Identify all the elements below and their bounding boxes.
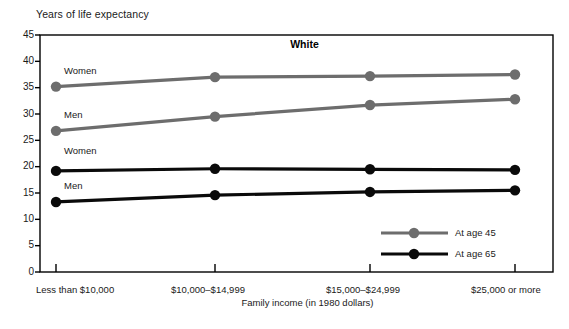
y-tick-label-4: 25: [12, 135, 34, 145]
data-point-2-1: [210, 164, 220, 174]
y-tick-label-2: 35: [12, 82, 34, 92]
data-point-0-0: [51, 81, 61, 91]
series-line-0: [56, 75, 515, 87]
x-axis-title: Family income (in 1980 dollars): [0, 297, 569, 308]
data-point-0-1: [210, 72, 220, 82]
data-point-1-2: [365, 100, 375, 110]
y-tick-label-6: 15: [12, 188, 34, 198]
data-point-3-0: [51, 197, 61, 207]
y-tick-label-9: 0: [12, 267, 34, 277]
y-tick-label-1: 40: [12, 56, 34, 66]
legend-label-age65: At age 65: [455, 249, 496, 259]
data-point-3-1: [210, 190, 220, 200]
y-tick-label-0: 45: [12, 30, 34, 40]
x-tick-label-1: $10,000–$14,999: [171, 285, 245, 295]
data-point-2-3: [510, 165, 520, 175]
series-line-1: [56, 99, 515, 131]
chart-figure: Years of life expectancy White Family in…: [0, 0, 569, 329]
y-axis-title: Years of life expectancy: [36, 8, 149, 20]
data-point-2-0: [51, 166, 61, 176]
x-tick-label-2: $15,000–$24,999: [326, 285, 400, 295]
y-tick-label-7: 10: [12, 214, 34, 224]
chart-title: White: [0, 38, 569, 50]
legend-swatch-marker-0: [409, 228, 419, 238]
series-line-2: [56, 169, 515, 171]
data-point-1-1: [210, 111, 220, 121]
series-label-women-65: Women: [64, 146, 97, 156]
series-label-men-45: Men: [64, 110, 82, 120]
legend-swatch-marker-1: [409, 249, 419, 259]
series-label-women-45: Women: [64, 66, 97, 76]
y-tick-label-3: 30: [12, 109, 34, 119]
data-point-0-3: [510, 69, 520, 79]
legend-label-age45: At age 45: [455, 228, 496, 238]
data-point-1-3: [510, 94, 520, 104]
data-point-3-2: [365, 187, 375, 197]
data-point-2-2: [365, 164, 375, 174]
series-line-3: [56, 190, 515, 202]
series-label-men-65: Men: [64, 181, 82, 191]
y-tick-label-8: 5: [12, 240, 34, 250]
x-tick-label-0: Less than $10,000: [36, 285, 114, 295]
y-tick-label-5: 20: [12, 161, 34, 171]
data-point-0-2: [365, 71, 375, 81]
data-point-3-3: [510, 185, 520, 195]
data-point-1-0: [51, 126, 61, 136]
x-tick-label-3: $25,000 or more: [471, 285, 541, 295]
